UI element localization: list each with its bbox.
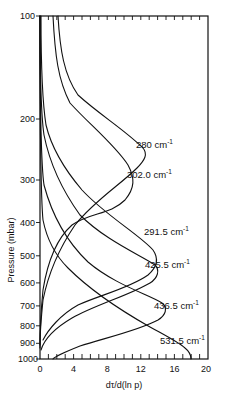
curve-302 [40,16,133,348]
y-tick-300: 300 [20,175,35,185]
x-tick-4: 4 [71,364,76,374]
y-tick-200: 200 [20,114,35,124]
weighting-function-chart: 100 200 300 400 500 600 700 800 900 1000… [0,0,226,402]
y-tick-400: 400 [20,218,35,228]
y-tick-500: 500 [20,251,35,261]
x-tick-20: 20 [201,364,211,374]
curve-280 [40,16,145,345]
label-302: 302.0 cm-1 [127,168,172,180]
y-tick-900: 900 [20,338,35,348]
x-axis-title: dτ/d(ln p) [106,380,143,390]
y-tick-600: 600 [20,278,35,288]
label-280: 280 cm-1 [136,138,173,150]
x-tick-12: 12 [136,364,146,374]
label-425: 425.5 cm-1 [145,258,190,270]
x-tick-0: 0 [37,364,42,374]
x-tick-16: 16 [169,364,179,374]
y-axis-title: Pressure (mbar) [6,217,16,282]
curve-436 [40,16,165,359]
bottom-ticks [48,354,199,359]
x-tick-8: 8 [105,364,110,374]
y-tick-700: 700 [20,301,35,311]
y-tick-labels: 100 200 300 400 500 600 700 800 900 1000 [18,11,38,364]
label-291: 291.5 cm-1 [144,225,189,237]
y-tick-800: 800 [20,321,35,331]
label-531: 531.5 cm-1 [160,334,205,346]
x-tick-labels: 0 4 8 12 16 20 [37,364,211,374]
y-tick-1000: 1000 [18,354,38,364]
y-tick-100: 100 [20,11,35,21]
label-436: 436.5 cm-1 [154,299,199,311]
curve-labels: 280 cm-1 302.0 cm-1 291.5 cm-1 425.5 cm-… [127,138,205,346]
